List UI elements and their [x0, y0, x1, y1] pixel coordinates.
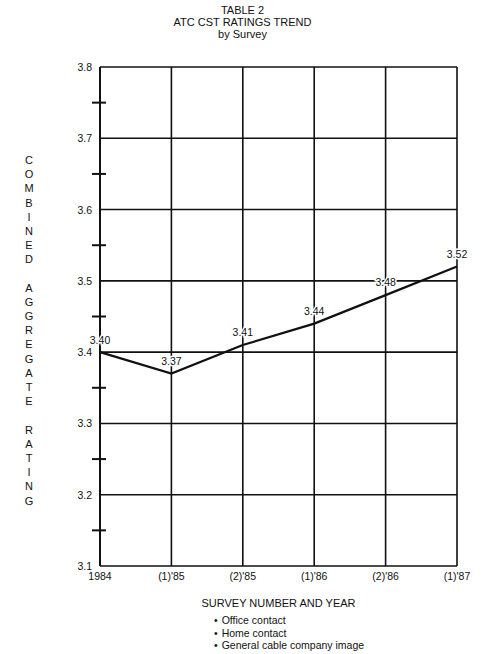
- line-chart: 3.13.23.33.43.53.63.73.81984(1)'85(2)'85…: [0, 0, 485, 654]
- x-tick-label: 1984: [88, 570, 112, 582]
- rating-trend-line: [100, 267, 457, 374]
- legend-item-office-contact: Office contact: [214, 614, 364, 627]
- x-tick-label: (2)'86: [372, 570, 399, 582]
- y-tick-label: 3.8: [77, 61, 92, 73]
- y-tick-label: 3.3: [77, 417, 92, 429]
- x-tick-label: (2)'85: [230, 570, 257, 582]
- x-axis-label: SURVEY NUMBER AND YEAR: [100, 597, 457, 609]
- data-label: 3.48: [375, 276, 396, 288]
- y-tick-label: 3.7: [77, 132, 92, 144]
- y-tick-label: 3.5: [77, 275, 92, 287]
- data-label: 3.40: [90, 334, 111, 346]
- y-tick-label: 3.4: [77, 346, 92, 358]
- data-label: 3.52: [447, 248, 468, 260]
- data-label: 3.44: [304, 305, 325, 317]
- y-tick-label: 3.6: [77, 204, 92, 216]
- legend-item-general-cable-image: General cable company image: [214, 639, 364, 652]
- data-label: 3.37: [161, 355, 182, 367]
- x-tick-label: (1)'87: [444, 570, 471, 582]
- legend: Office contact Home contact General cabl…: [214, 614, 364, 652]
- y-tick-label: 3.2: [77, 489, 92, 501]
- x-tick-label: (1)'85: [158, 570, 185, 582]
- data-label: 3.41: [233, 326, 254, 338]
- x-tick-label: (1)'86: [301, 570, 328, 582]
- legend-item-home-contact: Home contact: [214, 627, 364, 640]
